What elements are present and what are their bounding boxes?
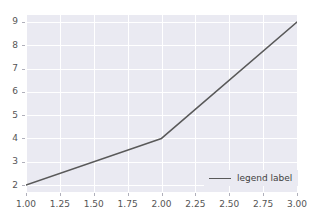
y-tick-label: 7	[2, 64, 18, 73]
y-tick-mark	[22, 45, 25, 46]
figure-canvas: 23456789 1.001.251.501.752.002.252.502.7…	[0, 0, 311, 223]
x-tick-mark	[229, 193, 230, 196]
legend-box[interactable]: legend label	[204, 170, 298, 186]
x-tick-mark	[162, 193, 163, 196]
x-tick-label: 1.25	[43, 200, 77, 209]
y-tick-label: 9	[2, 17, 18, 26]
y-tick-mark	[22, 22, 25, 23]
y-tick-label: 6	[2, 87, 18, 96]
x-tick-mark	[26, 193, 27, 196]
y-tick-label: 3	[2, 157, 18, 166]
plot-area	[26, 15, 297, 192]
y-tick-mark	[22, 92, 25, 93]
y-tick-mark	[22, 185, 25, 186]
data-line-series	[26, 15, 297, 192]
series-polyline	[26, 22, 297, 185]
x-tick-label: 2.25	[178, 200, 212, 209]
legend-line-icon	[209, 178, 231, 179]
y-tick-mark	[22, 162, 25, 163]
x-tick-label: 2.75	[246, 200, 280, 209]
x-tick-label: 2.00	[145, 200, 179, 209]
x-tick-label: 1.50	[77, 200, 111, 209]
x-tick-mark	[297, 193, 298, 196]
x-tick-mark	[60, 193, 61, 196]
y-tick-mark	[22, 138, 25, 139]
x-tick-mark	[128, 193, 129, 196]
y-tick-label: 4	[2, 134, 18, 143]
x-tick-mark	[263, 193, 264, 196]
y-tick-mark	[22, 115, 25, 116]
y-tick-mark	[22, 69, 25, 70]
x-tick-mark	[94, 193, 95, 196]
x-tick-label: 2.50	[212, 200, 246, 209]
y-tick-label: 5	[2, 111, 18, 120]
x-tick-label: 1.00	[9, 200, 43, 209]
x-tick-label: 3.00	[280, 200, 311, 209]
y-tick-label: 8	[2, 41, 18, 50]
legend-label: legend label	[237, 173, 292, 183]
y-tick-label: 2	[2, 181, 18, 190]
x-tick-mark	[195, 193, 196, 196]
x-tick-label: 1.75	[111, 200, 145, 209]
